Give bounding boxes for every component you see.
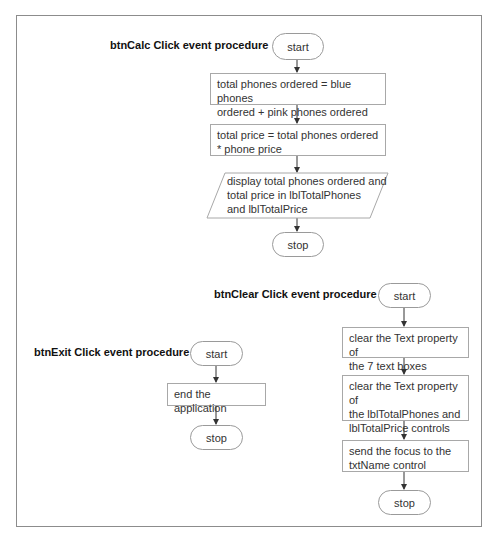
btncalc-stop-terminal: stop — [272, 232, 324, 257]
btnclear-step-clear-labels: clear the Text property of the lblTotalP… — [342, 375, 469, 421]
step-line: total price = total phones ordered — [217, 128, 379, 142]
btncalc-step-total-phones: total phones ordered = blue phones order… — [210, 73, 386, 105]
btnexit-start-terminal: start — [190, 341, 243, 366]
btnclear-procedure-label: btnClear Click event procedure — [214, 288, 377, 300]
btncalc-start-terminal: start — [272, 33, 324, 60]
step-line: * phone price — [217, 142, 379, 156]
step-line: clear the Text property of — [349, 331, 462, 359]
step-line: total phones ordered = blue phones — [217, 77, 379, 105]
step-line: send the focus to the — [349, 444, 462, 458]
btncalc-step-total-price: total price = total phones ordered * pho… — [210, 124, 386, 156]
step-line: clear the Text property of — [349, 379, 462, 407]
btnclear-step-send-focus: send the focus to the txtName control — [342, 440, 469, 472]
btnexit-stop-terminal: stop — [190, 425, 243, 450]
btnexit-step-end-application: end the application — [167, 383, 266, 406]
btnclear-step-clear-textboxes: clear the Text property of the 7 text bo… — [342, 327, 469, 358]
btncalc-procedure-label: btnCalc Click event procedure — [110, 39, 268, 51]
step-line: lblTotalPrice controls — [349, 421, 462, 435]
step-line: total price in lblTotalPhones — [227, 188, 387, 202]
btnclear-start-terminal: start — [378, 283, 431, 308]
step-line: end the application — [174, 387, 259, 415]
btncalc-step-display-output: display total phones ordered and total p… — [227, 174, 387, 216]
step-line: and lblTotalPrice — [227, 202, 387, 216]
step-line: txtName control — [349, 458, 462, 472]
step-line: ordered + pink phones ordered — [217, 105, 379, 119]
step-line: the lblTotalPhones and — [349, 407, 462, 421]
btnexit-procedure-label: btnExit Click event procedure — [34, 346, 189, 358]
step-line: display total phones ordered and — [227, 174, 387, 188]
btnclear-stop-terminal: stop — [378, 490, 431, 515]
step-line: the 7 text boxes — [349, 359, 462, 373]
